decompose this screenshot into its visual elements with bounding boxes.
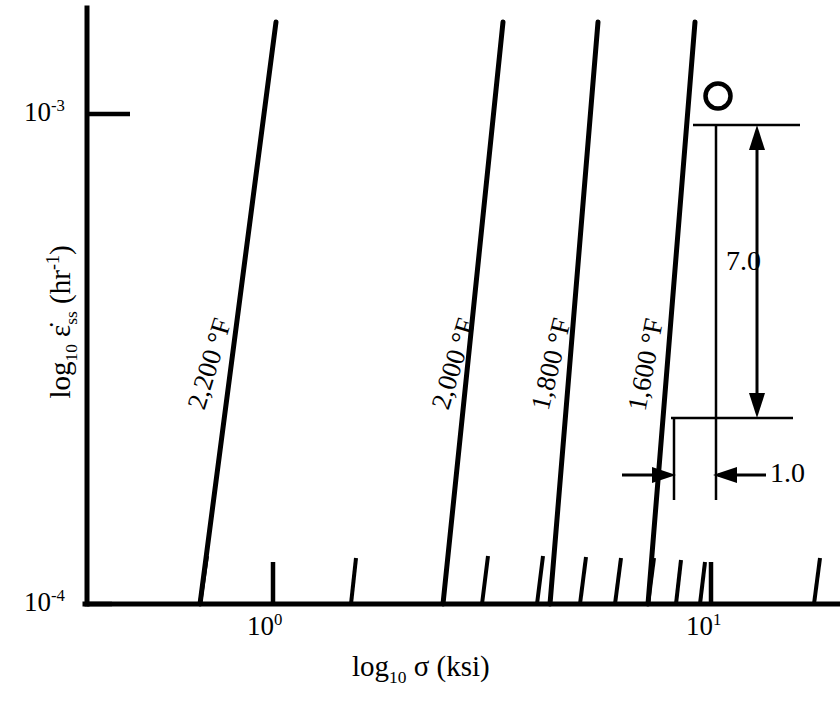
x-minor-tick-6 [615,558,621,604]
curve-2200F [200,22,276,604]
slope-construction [622,125,800,500]
x-axis-ticks [200,556,820,604]
x-minor-tick-2 [351,558,356,604]
axis-spines [85,8,838,604]
rise-arrow-head-down [749,393,765,418]
chart-figure: 10-3 10-4 100 101 log10 ε̇ss (hr-1) log1… [0,0,840,713]
open-circle-marker [706,84,731,109]
x-minor-tick-3 [482,556,488,604]
rise-arrow-head-up [749,125,765,150]
x-minor-tick-9 [700,562,705,604]
y-axis-title-wrapper: log10 ε̇ss (hr-1) [38,157,82,487]
curve-1600F [648,22,695,604]
x-tick-label-1e1: 101 [686,611,721,642]
x-minor-tick-10 [814,558,820,604]
curve-2000F [443,22,503,604]
y-tick-label-1e-4: 10-4 [24,587,65,618]
slope-rise-label: 7.0 [726,245,761,277]
chart-canvas [0,0,840,713]
x-minor-tick-4 [537,556,543,604]
x-axis-title: log10 σ (ksi) [352,650,490,683]
x-minor-tick-5 [580,557,586,604]
creep-curves [200,22,695,604]
x-minor-tick-8 [676,560,681,604]
curve-1800F [550,22,598,604]
y-axis-title: log10 ε̇ss (hr-1) [44,245,77,398]
y-tick-label-1e-3: 10-3 [24,97,65,128]
x-tick-label-1e0: 100 [247,611,282,642]
slope-run-label: 1.0 [770,457,805,489]
y-axis-ticks [87,114,130,604]
run-arrow-left-head [652,467,676,483]
